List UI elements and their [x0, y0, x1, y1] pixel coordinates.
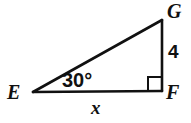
- angle-measure-label-e: 30°: [62, 70, 92, 90]
- segment-ef: [33, 91, 162, 92]
- right-angle-marker-icon: [148, 77, 162, 91]
- side-length-label-gf: 4: [168, 42, 179, 61]
- vertex-label-f: F: [166, 82, 179, 102]
- geometry-figure-container: E F G 4 x 30°: [0, 0, 191, 123]
- vertex-label-g: G: [167, 1, 181, 21]
- side-length-label-ef: x: [91, 98, 101, 117]
- vertex-label-e: E: [7, 82, 20, 102]
- segment-eg: [33, 20, 162, 92]
